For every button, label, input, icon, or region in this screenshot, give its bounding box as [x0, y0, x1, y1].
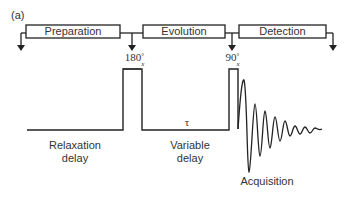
tau-label: τ	[181, 116, 193, 129]
pulse-label-90: 90°x	[222, 51, 240, 66]
arrow-down-icons	[17, 45, 337, 51]
arrow-down-icon	[17, 45, 25, 51]
stage-label-detection: Detection	[239, 25, 326, 38]
arrow-down-icon	[329, 45, 337, 51]
acquisition-label: Acquisition	[232, 175, 302, 188]
fid-signal	[238, 80, 322, 172]
relaxation-delay-label: Relaxationdelay	[40, 139, 110, 165]
variable-delay-label: Variabledelay	[155, 139, 225, 165]
stage-label-evolution: Evolution	[143, 25, 225, 38]
panel-label: (a)	[11, 9, 24, 22]
pulse-label-180: 180°x	[121, 51, 145, 66]
stage-label-preparation: Preparation	[26, 25, 120, 38]
pulse-baseline	[27, 69, 238, 130]
